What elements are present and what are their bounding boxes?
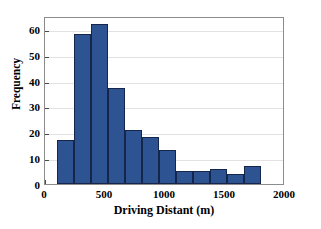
x-axis-tick-label: 1000 [144,188,184,200]
histogram-bar [193,171,210,184]
y-axis-tick-label: 60 [12,25,40,36]
histogram-bar [108,88,125,184]
x-axis-tick-label: 2000 [264,188,304,200]
y-axis-tick-label: 10 [12,154,40,165]
histogram-figure: 0102030405060 Frequency 0500100015002000… [0,0,321,229]
y-axis-title: Frequency [10,44,22,124]
histogram-bar [91,24,108,184]
histogram-bars [45,18,283,184]
histogram-bar [176,171,193,184]
histogram-bar [227,174,244,184]
histogram-bar [74,34,91,184]
histogram-bar [125,130,142,184]
histogram-bar [142,137,159,184]
x-axis-tick-label: 1500 [204,188,244,200]
x-axis-tick-labels: 0500100015002000 [44,188,284,202]
histogram-bar [210,169,227,185]
x-axis-tick-label: 0 [24,188,64,200]
y-axis-tick-label: 20 [12,128,40,139]
x-axis-title: Driving Distant (m) [44,203,284,218]
plot-area [44,17,284,185]
histogram-bar [244,166,261,184]
histogram-bar [57,140,74,184]
histogram-bar [159,150,176,184]
x-axis-tick-label: 500 [84,188,124,200]
